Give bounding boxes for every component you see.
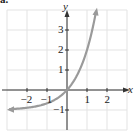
panel-label: a. <box>0 0 8 5</box>
x-tick-label: 1 <box>85 94 91 105</box>
x-axis-label: x <box>128 84 133 95</box>
exponential-graph <box>0 0 135 133</box>
y-axis-label: y <box>63 1 68 12</box>
y-tick-label: 2 <box>58 44 64 55</box>
x-tick-label: −2 <box>21 94 33 105</box>
x-tick-label: 2 <box>105 94 111 105</box>
y-tick-label: 3 <box>58 24 64 35</box>
y-tick-label: −1 <box>53 104 65 115</box>
x-tick-label: −1 <box>41 94 53 105</box>
y-tick-label: 1 <box>58 64 64 75</box>
